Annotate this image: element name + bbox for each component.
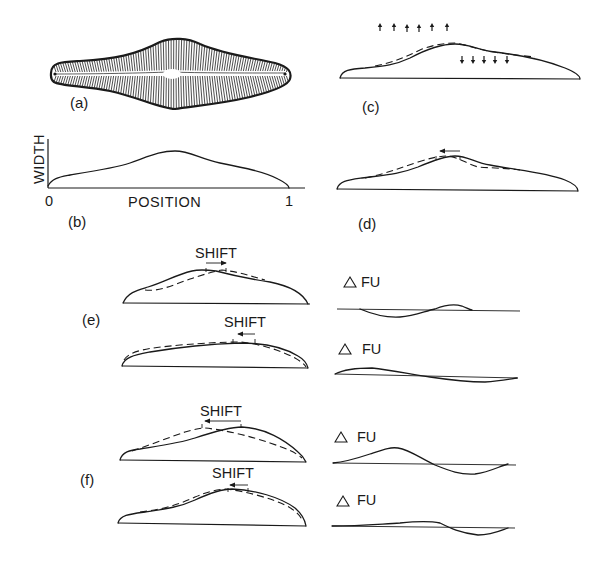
shifted-outline bbox=[145, 270, 265, 290]
panel-b: WIDTH 0 1 POSITION (b) bbox=[31, 134, 305, 230]
panel-label-a: (a) bbox=[70, 94, 88, 111]
down-arrow-icon bbox=[460, 56, 464, 64]
x-axis-label: POSITION bbox=[128, 194, 201, 210]
up-arrow-icon bbox=[405, 24, 409, 32]
panel-e: (e) SHIFT SHIFT FU bbox=[82, 245, 520, 382]
panel-e-row-2: SHIFT bbox=[122, 314, 308, 368]
baseline bbox=[122, 366, 308, 368]
shift-label: SHIFT bbox=[212, 465, 254, 481]
panel-label-c: (c) bbox=[362, 98, 380, 115]
delta-fu-label: FU bbox=[361, 274, 380, 290]
original-outline bbox=[337, 156, 578, 191]
up-arrow-icon bbox=[392, 23, 396, 31]
panel-c: (c) bbox=[340, 23, 580, 115]
panel-e-row-1: SHIFT bbox=[123, 245, 310, 304]
zero-line bbox=[333, 463, 516, 465]
panel-label-b: (b) bbox=[68, 213, 86, 230]
zero-line bbox=[332, 526, 515, 528]
down-arrows bbox=[460, 56, 509, 64]
shift-label: SHIFT bbox=[195, 245, 237, 261]
up-arrow-icon bbox=[430, 23, 434, 31]
original-outline bbox=[122, 343, 308, 368]
baseline bbox=[118, 523, 306, 526]
delta-fu-curve bbox=[360, 305, 472, 317]
delta-triangle-icon bbox=[337, 496, 349, 506]
delta-fu-f-2: FU bbox=[332, 492, 515, 535]
down-arrow-icon bbox=[493, 56, 497, 64]
x-tick-0: 0 bbox=[45, 193, 54, 209]
panel-d: (d) bbox=[337, 151, 578, 232]
delta-fu-label: FU bbox=[357, 492, 376, 508]
panel-label-d: (d) bbox=[358, 215, 376, 232]
panel-label-f: (f) bbox=[80, 471, 94, 488]
original-outline bbox=[123, 270, 308, 304]
shift-label: SHIFT bbox=[224, 314, 266, 330]
baseline bbox=[123, 303, 310, 304]
up-arrow-icon bbox=[417, 24, 421, 32]
delta-fu-e-2: FU bbox=[335, 341, 518, 382]
figure-canvas: (a) WIDTH 0 1 POSITION (b) (c bbox=[0, 0, 610, 565]
delta-fu-e-1: FU bbox=[337, 274, 520, 317]
delta-fu-label: FU bbox=[357, 429, 376, 445]
width-profile-curve bbox=[48, 151, 289, 188]
original-outline bbox=[118, 489, 306, 526]
y-axis-label: WIDTH bbox=[31, 134, 47, 184]
baseline bbox=[340, 78, 580, 79]
panel-a: (a) bbox=[42, 30, 300, 118]
up-arrow-icon bbox=[445, 23, 449, 31]
panel-f-row-2: SHIFT bbox=[118, 465, 306, 526]
x-tick-1: 1 bbox=[285, 193, 294, 209]
delta-triangle-icon bbox=[344, 277, 356, 287]
delta-fu-label: FU bbox=[362, 341, 381, 357]
shift-label: SHIFT bbox=[200, 403, 242, 419]
panel-f: (f) SHIFT SHIFT FU bbox=[80, 403, 516, 535]
delta-triangle-icon bbox=[335, 432, 347, 442]
down-arrow-icon bbox=[471, 56, 475, 64]
panel-label-e: (e) bbox=[82, 311, 100, 328]
original-outline bbox=[340, 44, 580, 79]
delta-fu-curve bbox=[332, 522, 508, 536]
up-arrow-icon bbox=[378, 23, 382, 31]
shifted-outline bbox=[140, 489, 302, 520]
down-arrow-icon bbox=[482, 56, 486, 64]
delta-triangle-icon bbox=[339, 344, 351, 354]
original-outline bbox=[120, 427, 306, 462]
panel-f-row-1: SHIFT bbox=[120, 403, 306, 462]
down-arrow-icon bbox=[505, 56, 509, 64]
delta-fu-f-1: FU bbox=[333, 429, 516, 474]
baseline bbox=[120, 460, 306, 462]
up-arrows bbox=[378, 23, 449, 32]
shifted-outline bbox=[124, 342, 306, 367]
delta-fu-curve bbox=[333, 448, 508, 474]
shifted-outline bbox=[132, 428, 302, 458]
baseline bbox=[337, 189, 578, 191]
